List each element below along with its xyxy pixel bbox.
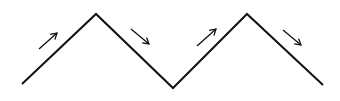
- zigzag-diagram: [0, 0, 340, 101]
- arrow-up-right-icon: [39, 33, 57, 49]
- arrow-down-right-icon: [131, 29, 149, 44]
- arrow-down-right-icon: [283, 30, 301, 45]
- arrow-up-right-icon: [197, 29, 216, 46]
- zigzag-line: [22, 14, 323, 88]
